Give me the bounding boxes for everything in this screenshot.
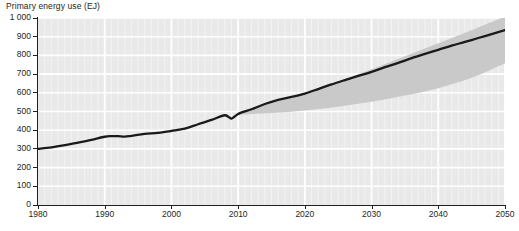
- y-axis-tick: [33, 36, 37, 37]
- y-axis-tick: [33, 92, 37, 93]
- y-axis-tick: [33, 148, 37, 149]
- x-axis-tick-label: 2040: [418, 209, 458, 219]
- y-axis-tick-label: 0: [1, 200, 31, 209]
- y-axis-tick: [33, 130, 37, 131]
- x-axis-tick-label: 2050: [485, 209, 519, 219]
- y-axis-tick: [33, 18, 37, 19]
- y-axis-tick: [33, 55, 37, 56]
- y-axis-tick-label: 300: [1, 144, 31, 153]
- x-axis-tick-label: 2030: [352, 209, 392, 219]
- y-axis-tick-label: 600: [1, 88, 31, 97]
- y-axis-tick: [33, 205, 37, 206]
- y-axis-tick-labels: 01002003004005006007008009001 000: [0, 0, 31, 231]
- x-axis-tick-label: 1980: [18, 209, 58, 219]
- y-axis-tick-label: 400: [1, 125, 31, 134]
- y-axis-tick-label: 100: [1, 181, 31, 190]
- chart-plot-svg: [38, 18, 505, 205]
- y-axis-tick-label: 800: [1, 50, 31, 59]
- y-axis-tick-label: 200: [1, 163, 31, 172]
- x-axis-tick-label: 2020: [285, 209, 325, 219]
- y-axis-tick-label: 500: [1, 107, 31, 116]
- y-axis-tick: [33, 186, 37, 187]
- y-axis-tick: [33, 111, 37, 112]
- y-axis-tick-label: 1 000: [1, 13, 31, 22]
- y-axis-tick-label: 900: [1, 32, 31, 41]
- y-axis-tick-label: 700: [1, 69, 31, 78]
- y-axis-tick: [33, 74, 37, 75]
- y-axis-tick: [33, 167, 37, 168]
- plot-area: [38, 18, 505, 205]
- x-axis-tick-label: 2000: [151, 209, 191, 219]
- x-axis-tick-label: 2010: [218, 209, 258, 219]
- x-axis-tick-label: 1990: [85, 209, 125, 219]
